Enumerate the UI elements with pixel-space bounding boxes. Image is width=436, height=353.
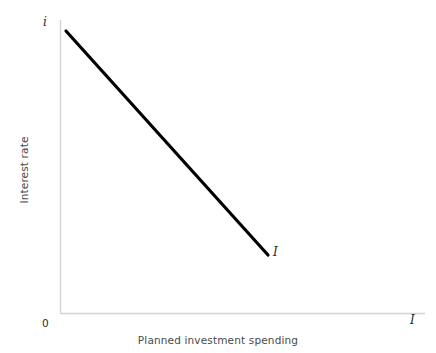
y-axis-symbol-label: i [43,15,47,29]
investment-curve-label: I [273,245,278,259]
x-axis-symbol-label: I [410,313,415,327]
chart-plot-area [0,0,436,353]
investment-demand-curve [66,31,268,255]
x-axis-title: Planned investment spending [0,334,436,346]
y-axis-title: Interest rate [18,110,30,230]
investment-demand-chart: Interest rate Planned investment spendin… [0,0,436,353]
origin-label: 0 [42,317,49,329]
